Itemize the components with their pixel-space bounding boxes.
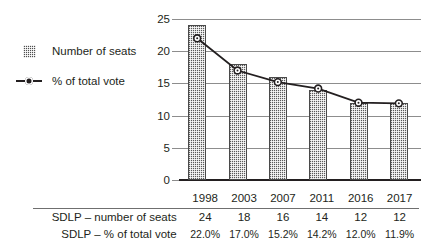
y-axis-tick-mark <box>172 116 179 117</box>
y-axis-tick-mark <box>172 83 179 84</box>
data-point-2007 <box>274 79 281 86</box>
table-cell: 12.0% <box>341 226 380 243</box>
y-axis-tick-mark <box>172 19 179 20</box>
y-axis-tick-label: 0 <box>164 174 170 186</box>
bar-swatch-icon <box>14 45 44 58</box>
chart-plot-area: 0510152025 <box>179 19 421 180</box>
table-cell: 15.2% <box>264 226 303 243</box>
table-header-row: 199820032007201120162017 <box>33 190 419 208</box>
table-row: SDLP – % of total vote22.0%17.0%15.2%14.… <box>33 226 419 243</box>
y-axis-tick-label: 10 <box>157 110 170 122</box>
table-cell: 14 <box>302 209 341 226</box>
data-point-2016 <box>355 99 362 106</box>
table-cell: 12 <box>341 209 380 226</box>
table-cell: 11.9% <box>380 226 419 243</box>
y-axis-tick-label: 20 <box>157 45 170 57</box>
legend-item-number-of-seats: Number of seats <box>14 36 174 66</box>
chart-line-series <box>179 19 421 180</box>
table-cell: 12 <box>380 209 419 226</box>
legend-item-percent-of-total-vote: % of total vote <box>14 66 174 96</box>
chart-legend: Number of seats % of total vote <box>14 36 174 96</box>
y-axis-tick-label: 25 <box>157 13 170 25</box>
table-column-header: 2003 <box>225 190 264 208</box>
table-cell: 17.0% <box>225 226 264 243</box>
y-axis-tick-label: 5 <box>164 142 170 154</box>
table-column-header: 2007 <box>264 190 303 208</box>
table-cell: 24 <box>186 209 225 226</box>
y-axis-tick-mark <box>172 51 179 52</box>
data-point-2017 <box>395 100 402 107</box>
y-axis-tick-mark <box>172 148 179 149</box>
table-row-label: SDLP – number of seats <box>33 209 186 226</box>
legend-item-label: % of total vote <box>44 75 125 87</box>
data-point-2003 <box>234 67 241 74</box>
y-axis-tick-label: 15 <box>157 77 170 89</box>
table-row: SDLP – number of seats241816141212 <box>33 209 419 226</box>
table-column-header: 2011 <box>302 190 341 208</box>
table-cell: 14.2% <box>302 226 341 243</box>
table-corner-cell <box>33 190 186 208</box>
line-path <box>197 38 399 103</box>
table-column-header: 2016 <box>341 190 380 208</box>
data-table: 199820032007201120162017SDLP – number of… <box>33 190 419 243</box>
table-row-label: SDLP – % of total vote <box>33 226 186 243</box>
y-axis-tick-mark <box>172 180 179 181</box>
table-column-header: 1998 <box>186 190 225 208</box>
table-column-header: 2017 <box>380 190 419 208</box>
table-cell: 16 <box>264 209 303 226</box>
line-marker-icon <box>14 75 44 87</box>
table-cell: 18 <box>225 209 264 226</box>
data-point-1998 <box>194 35 201 42</box>
data-point-2011 <box>315 85 322 92</box>
table-cell: 22.0% <box>186 226 225 243</box>
legend-item-label: Number of seats <box>44 45 136 57</box>
